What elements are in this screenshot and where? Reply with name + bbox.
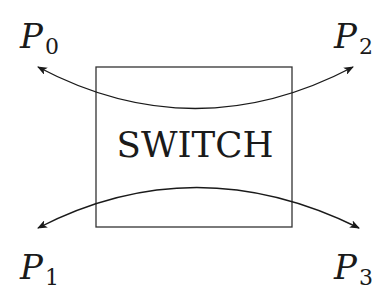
svg-text:P: P — [19, 16, 44, 56]
port-p1: P 1 — [19, 247, 59, 290]
connection-p1-p3 — [38, 188, 359, 229]
svg-text:P: P — [333, 247, 358, 287]
svg-text:2: 2 — [359, 34, 373, 59]
svg-text:1: 1 — [45, 265, 59, 290]
switch-diagram: SWITCH P 0 P 2 P 1 P 3 — [0, 0, 392, 299]
port-p2: P 2 — [333, 16, 373, 59]
port-p0: P 0 — [19, 16, 59, 59]
port-p3: P 3 — [333, 247, 373, 290]
svg-text:0: 0 — [45, 34, 59, 59]
switch-label: SWITCH — [117, 124, 274, 165]
connection-p0-p2 — [38, 67, 353, 109]
svg-text:P: P — [333, 16, 358, 56]
svg-text:P: P — [19, 247, 44, 287]
svg-text:3: 3 — [359, 265, 373, 290]
